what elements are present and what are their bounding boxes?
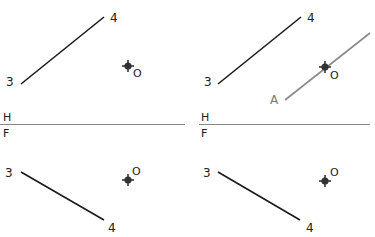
fold-label-h: H	[201, 111, 209, 124]
label-point-4: 4	[306, 221, 314, 235]
right-fold-line-group: H F	[199, 111, 370, 140]
right-panel: 4 3 A O H F 3 4 O	[199, 11, 370, 235]
label-line-a: A	[270, 93, 279, 107]
label-point-o: O	[133, 67, 142, 80]
left-top-view: 4 3 O	[6, 11, 142, 89]
label-point-o: O	[330, 166, 339, 179]
label-point-4: 4	[108, 221, 116, 235]
label-point-4: 4	[307, 11, 315, 25]
label-point-4: 4	[110, 11, 118, 25]
line-3-4-front	[218, 172, 300, 220]
line-3-4-front	[21, 172, 104, 220]
fold-label-f: F	[3, 127, 9, 140]
left-front-view: 3 4 O	[5, 165, 141, 235]
fold-label-f: F	[201, 127, 207, 140]
label-point-o: O	[132, 165, 141, 178]
label-point-3: 3	[6, 75, 14, 89]
line-3-4-top	[21, 17, 104, 84]
label-point-3: 3	[204, 75, 212, 89]
diagram-canvas: 4 3 O H F 3 4 O	[0, 0, 375, 237]
right-top-view: 4 3 A O	[204, 11, 370, 107]
fold-label-h: H	[3, 111, 11, 124]
left-panel: 4 3 O H F 3 4 O	[0, 11, 185, 235]
left-fold-line-group: H F	[0, 111, 185, 140]
label-point-3: 3	[5, 166, 13, 180]
line-3-4-top	[218, 17, 301, 84]
label-point-o: O	[330, 69, 339, 82]
right-front-view: 3 4 O	[203, 166, 339, 235]
label-point-3: 3	[203, 166, 211, 180]
